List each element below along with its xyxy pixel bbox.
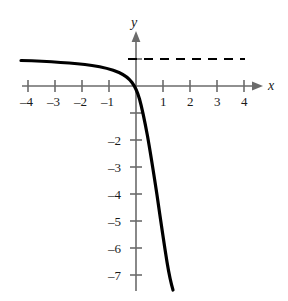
x-tick-label-1: 1 <box>160 95 167 108</box>
x-tick-label-3: 3 <box>214 95 221 108</box>
y-axis-label: y <box>131 16 137 30</box>
function-curve <box>21 61 173 291</box>
y-tick-label--2: –2 <box>108 134 121 147</box>
x-axis-arrowhead <box>252 82 263 91</box>
y-tick-label--5: –5 <box>108 215 121 228</box>
x-tick-label--2: –2 <box>74 95 87 108</box>
x-tick-label--4: –4 <box>20 95 33 108</box>
y-tick-label--3: –3 <box>108 161 121 174</box>
x-tick-label--1: –1 <box>101 95 114 108</box>
plot-canvas <box>0 0 288 301</box>
x-axis-label: x <box>268 79 274 93</box>
x-tick-label-4: 4 <box>241 95 248 108</box>
y-axis-arrowhead <box>132 31 141 42</box>
x-tick-label-2: 2 <box>187 95 194 108</box>
y-tick-label--4: –4 <box>108 188 121 201</box>
y-tick-label--6: –6 <box>108 242 121 255</box>
y-tick-label--7: –7 <box>108 269 121 282</box>
x-tick-label--3: –3 <box>47 95 60 108</box>
graph-figure: –4 –3 –2 –1 1 2 3 4 –2 –3 –4 –5 –6 –7 y … <box>0 0 288 301</box>
